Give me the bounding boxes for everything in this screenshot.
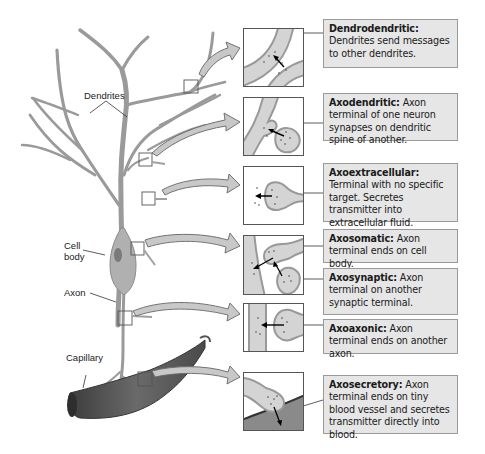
synapse-term: Axoextracellular: [329,167,419,178]
axoextracellular-description: Axoextracellular: Terminal with no speci… [323,163,458,222]
axodendritic-description: Axodendritic: Axon terminal of one neuro… [323,93,458,141]
synapse-text: Terminal with no specific target. Secret… [329,179,444,227]
axoaxonic-description: Axoaxonic: Axon terminal ends on another… [323,319,458,354]
synapse-text: Dendrites send messages to other dendrit… [329,35,450,58]
capillary-label: Capillary [66,352,103,363]
synapse-term: Axodendritic: [329,97,400,108]
axon-label: Axon [64,287,86,298]
axosomatic-axosynaptic-synapse-icon [243,235,304,295]
synapse-term: Axosynaptic: [329,272,397,283]
dendrodendritic-synapse-icon [243,28,304,87]
cell-body-label-line2: body [64,251,85,262]
synapse-term: Axosomatic: [329,233,394,244]
axoaxonic-synapse-icon [243,303,304,352]
axosecretory-synapse-icon [243,372,304,431]
axosynaptic-description: Axosynaptic: Axon terminal on another sy… [323,268,458,315]
axosecretory-description: Axosecretory: Axon terminal ends on tiny… [323,375,458,434]
cell-body-label-line1: Cell [64,240,80,251]
synapse-term: Axoaxonic: [329,323,387,334]
axoextracellular-synapse-icon [243,166,304,225]
dendrodendritic-description: Dendrodendritic: Dendrites send messages… [323,19,458,68]
synapse-term: Dendrodendritic: [329,23,419,34]
dendrites-label: Dendrites [84,90,125,101]
axosomatic-description: Axosomatic: Axon terminal ends on cell b… [323,229,458,263]
synapse-types-diagram: Dendrites Cell body Axon Capillary [0,0,485,454]
axodendritic-synapse-icon [243,97,304,156]
synapse-term: Axosecretory: [329,379,402,390]
